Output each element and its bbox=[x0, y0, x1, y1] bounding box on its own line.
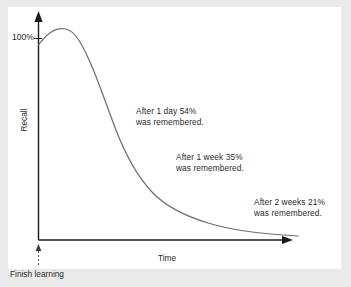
x-axis bbox=[39, 236, 294, 244]
annotation-after-1-week: After 1 week 35% was remembered. bbox=[176, 152, 244, 174]
forgetting-curve-figure: 100% Recall Time Finish learning After 1… bbox=[0, 0, 351, 287]
annotation-after-2-weeks-line1: After 2 weeks 21% bbox=[254, 197, 325, 208]
chart-canvas bbox=[0, 0, 351, 287]
annotation-after-1-day-line2: was remembered. bbox=[136, 117, 204, 128]
annotation-after-1-day-line1: After 1 day 54% bbox=[136, 106, 204, 117]
y-tick-label-100: 100% bbox=[12, 32, 34, 42]
annotation-after-2-weeks-line2: was remembered. bbox=[254, 208, 325, 219]
annotation-after-2-weeks: After 2 weeks 21% was remembered. bbox=[254, 197, 325, 219]
annotation-after-1-day: After 1 day 54% was remembered. bbox=[136, 106, 204, 128]
x-axis-label: Time bbox=[158, 253, 176, 263]
finish-learning-pointer-icon bbox=[36, 244, 42, 265]
annotation-after-1-week-line2: was remembered. bbox=[176, 163, 244, 174]
annotation-after-1-week-line1: After 1 week 35% bbox=[176, 152, 244, 163]
y-axis-label: Recall bbox=[19, 90, 29, 150]
finish-learning-label: Finish learning bbox=[10, 269, 64, 279]
